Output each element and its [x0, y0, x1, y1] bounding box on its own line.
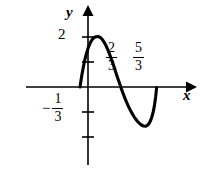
x-axis-label: x: [183, 88, 191, 103]
minus-sign-icon: −: [42, 101, 50, 116]
x-tick-label-five-thirds: 5 3: [133, 41, 144, 74]
fraction-numerator: 5: [134, 41, 143, 56]
fraction-stack: 1 3: [52, 92, 63, 125]
plot-canvas: [0, 0, 203, 173]
y-tick-label-2: 2: [58, 27, 66, 42]
y-axis-label: y: [66, 5, 73, 20]
fraction-numerator: 1: [54, 92, 61, 107]
x-tick-label-two-thirds: 2 3: [106, 41, 117, 74]
x-tick-label-minus-one-third: − 1 3: [42, 92, 63, 125]
fraction-numerator: 2: [107, 41, 116, 56]
fraction-denominator: 3: [54, 110, 61, 125]
fraction-denominator: 3: [134, 59, 143, 74]
y-axis-arrow-icon: [83, 5, 94, 16]
graph-figure: y x 2 2 3 5 3 − 1 3: [0, 0, 203, 173]
fraction-denominator: 3: [107, 59, 116, 74]
